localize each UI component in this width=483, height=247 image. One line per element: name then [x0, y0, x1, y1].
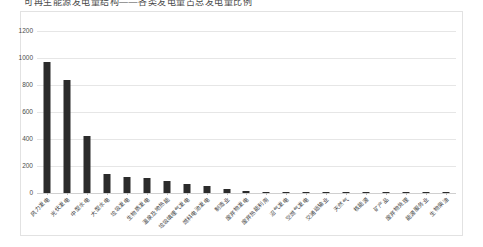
chart-container: 020040060080010001200 风力发电光伏发电中型水电大型水电垃圾… [20, 11, 463, 236]
bar-slot [296, 31, 316, 193]
x-axis-tick [366, 193, 367, 195]
bar-slot [276, 31, 296, 193]
x-axis-category-label: 核能源 [354, 197, 370, 213]
x-axis-category-label: 垃圾填埋气发电 [157, 197, 190, 230]
x-axis-category-label: 生物质发电 [126, 197, 151, 222]
x-axis-tick [326, 193, 327, 195]
chart-title-strip: 可再生能源发电量结构——各类发电量占总发电量比例 [0, 0, 483, 10]
x-axis-tick [187, 193, 188, 195]
bar[interactable] [183, 184, 190, 193]
bar-series [37, 31, 456, 193]
bar[interactable] [163, 181, 170, 193]
bar-slot [256, 31, 276, 193]
bar-slot [137, 31, 157, 193]
x-axis-category-label: 废弃物处理 [385, 197, 410, 222]
x-axis-category-label: 废弃物发电 [226, 197, 251, 222]
bar-slot [237, 31, 257, 193]
bar-slot [356, 31, 376, 193]
x-axis-tick [107, 193, 108, 195]
x-axis-tick [47, 193, 48, 195]
bar-slot [376, 31, 396, 193]
page-title: 可再生能源发电量结构——各类发电量占总发电量比例 [24, 0, 252, 8]
y-axis-tick-label: 0 [29, 190, 33, 197]
x-axis-tick [87, 193, 88, 195]
y-axis-tick-label: 200 [22, 163, 33, 170]
x-axis-category-label: 交通运输业 [305, 197, 330, 222]
x-axis-tick [147, 193, 148, 195]
bar-slot [157, 31, 177, 193]
bar[interactable] [203, 186, 210, 193]
bar-slot [436, 31, 456, 193]
bar-slot [177, 31, 197, 193]
bar[interactable] [83, 136, 90, 193]
bar-slot [336, 31, 356, 193]
x-axis-tick [406, 193, 407, 195]
x-axis-category-label: 垃圾发电 [110, 197, 131, 218]
y-axis-tick-label: 600 [22, 109, 33, 116]
x-axis-category-label: 温泉及地热能 [142, 197, 171, 226]
x-axis-category-label: 空燃气发电 [285, 197, 310, 222]
x-axis-tick [426, 193, 427, 195]
x-axis-category-label: 矿产品 [374, 197, 390, 213]
y-axis-tick-label: 400 [22, 136, 33, 143]
x-axis-tick [266, 193, 267, 195]
y-axis-tick-label: 1000 [19, 55, 33, 62]
y-axis-tick-label: 1200 [19, 28, 33, 35]
x-axis-tick [446, 193, 447, 195]
x-axis-tick [127, 193, 128, 195]
y-axis-tick-label: 800 [22, 82, 33, 89]
bar-slot [37, 31, 57, 193]
bar-slot [77, 31, 97, 193]
x-axis-category-label: 风力发电 [30, 197, 51, 218]
x-axis-category-label: 大型水电 [90, 197, 111, 218]
x-axis-category-label: 沼气发电 [270, 197, 291, 218]
plot-outer: 020040060080010001200 风力发电光伏发电中型水电大型水电垃圾… [21, 12, 464, 237]
bar[interactable] [63, 80, 70, 193]
bar-slot [197, 31, 217, 193]
x-axis-category-label: 燃料电池发电 [182, 197, 211, 226]
x-axis-category-label: 中型水电 [70, 197, 91, 218]
bar-slot [396, 31, 416, 193]
bar[interactable] [103, 174, 110, 193]
x-axis-tick [346, 193, 347, 195]
bar-slot [217, 31, 237, 193]
x-axis-tick [227, 193, 228, 195]
bar-slot [117, 31, 137, 193]
x-axis-category-label: 制造业 [214, 197, 230, 213]
plot-area: 020040060080010001200 [37, 31, 456, 193]
bar[interactable] [123, 177, 130, 193]
x-axis-tick [67, 193, 68, 195]
x-axis-tick [386, 193, 387, 195]
x-axis-tick [306, 193, 307, 195]
bar-slot [416, 31, 436, 193]
bar[interactable] [43, 62, 50, 193]
x-axis-category-label: 能源服务业 [405, 197, 430, 222]
x-axis-category-label: 光伏发电 [50, 197, 71, 218]
x-axis-tick [207, 193, 208, 195]
x-axis-category-label: 生物柴油 [429, 197, 450, 218]
x-axis-tick [246, 193, 247, 195]
bar-slot [97, 31, 117, 193]
x-axis-tick [167, 193, 168, 195]
bar[interactable] [143, 178, 150, 193]
bar-slot [316, 31, 336, 193]
x-axis-category-label: 废弃热能利用 [241, 197, 270, 226]
bar-slot [57, 31, 77, 193]
x-axis-tick [286, 193, 287, 195]
x-axis-category-label: 天然气 [334, 197, 350, 213]
